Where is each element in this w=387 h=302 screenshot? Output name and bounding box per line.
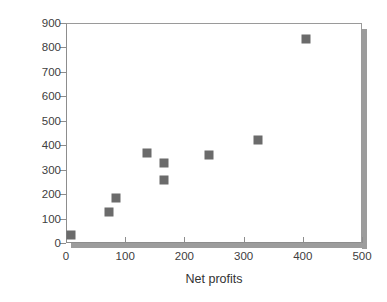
data-point-marker <box>204 150 213 159</box>
y-axis-tick-label: 800 <box>42 41 61 53</box>
data-point-marker <box>105 207 114 216</box>
x-axis-tick <box>184 237 185 243</box>
scatter-chart-figure: 0100200300400500600700800900 01002003004… <box>0 0 387 302</box>
x-axis-tick-label: 500 <box>352 250 371 262</box>
x-axis-tick-label: 0 <box>63 250 69 262</box>
data-point-marker <box>143 148 152 157</box>
plot-frame-shadow-bottom <box>71 243 367 248</box>
y-axis-tick-label: 300 <box>42 164 61 176</box>
y-axis-tick-label: 0 <box>55 237 61 249</box>
y-axis-tick-label: 400 <box>42 139 61 151</box>
data-point-marker <box>301 34 310 43</box>
x-axis-tick <box>125 237 126 243</box>
x-axis-tick <box>303 237 304 243</box>
x-axis-tick <box>244 237 245 243</box>
x-axis-tick-label: 100 <box>116 250 135 262</box>
y-axis-tick-label: 600 <box>42 90 61 102</box>
data-point-marker <box>254 135 263 144</box>
x-axis-tick-label: 300 <box>234 250 253 262</box>
data-point-marker <box>160 158 169 167</box>
data-point-marker <box>160 175 169 184</box>
y-axis-tick-label: 500 <box>42 115 61 127</box>
x-axis-tick-label: 200 <box>175 250 194 262</box>
x-axis-title: Net profits <box>66 272 362 286</box>
y-axis-tick-label: 200 <box>42 188 61 200</box>
y-axis-tick-label: 900 <box>42 17 61 29</box>
plot-frame-shadow-right <box>362 29 367 249</box>
y-axis-tick-label: 100 <box>42 213 61 225</box>
data-point-marker <box>112 194 121 203</box>
y-axis-title: Cash flow <box>14 243 30 302</box>
x-axis-tick <box>362 237 363 243</box>
data-point-marker <box>66 230 75 239</box>
x-axis-tick-label: 400 <box>293 250 312 262</box>
y-axis-tick-label: 700 <box>42 66 61 78</box>
